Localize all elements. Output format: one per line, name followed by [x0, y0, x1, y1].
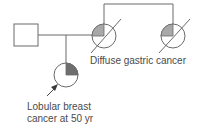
sibship-line	[104, 4, 173, 24]
pedigree-diagram: Diffuse gastric cancer Lobular breast ca…	[0, 0, 200, 132]
gastric-cancer-label: Diffuse gastric cancer	[90, 55, 186, 67]
proband-symbol	[54, 63, 78, 87]
breast-cancer-label-line1: Lobular breast	[27, 101, 93, 113]
mother-symbol	[91, 19, 121, 53]
maternal-sister-symbol	[159, 19, 190, 53]
father-square	[14, 24, 38, 46]
proband-arrow-icon	[47, 84, 58, 96]
breast-cancer-label-line2: cancer at 50 yr	[27, 113, 93, 125]
breast-cancer-label: Lobular breast cancer at 50 yr	[27, 101, 93, 125]
